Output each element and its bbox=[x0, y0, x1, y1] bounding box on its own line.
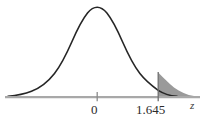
normal-curve-figure: 0 1.645 z bbox=[0, 0, 208, 129]
normal-curve-plot bbox=[0, 0, 208, 129]
bell-curve-path bbox=[8, 7, 177, 96]
axis-label-z: z bbox=[190, 100, 194, 111]
tick-label-critical-value: 1.645 bbox=[136, 103, 165, 116]
tick-label-zero: 0 bbox=[91, 103, 98, 116]
